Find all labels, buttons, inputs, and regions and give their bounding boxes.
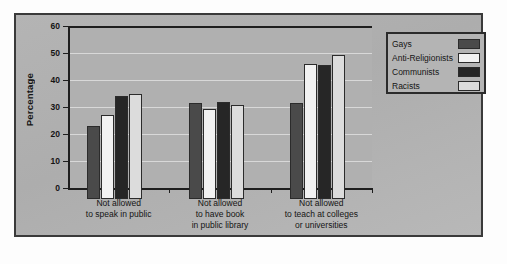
bar: [129, 94, 142, 199]
y-axis-tick: [63, 107, 68, 108]
y-axis-tick-label: 10: [51, 156, 60, 166]
y-axis-tick-label: 50: [51, 48, 60, 58]
y-axis-tick-label: 0: [55, 183, 60, 193]
y-axis-tick: [63, 80, 68, 81]
legend-label: Racists: [392, 81, 420, 91]
legend-swatch-communists: [458, 67, 480, 77]
y-axis-tick: [63, 134, 68, 135]
bar-group: [87, 37, 142, 199]
plot-area: 0102030405060 Not allowed to speak in pu…: [68, 26, 372, 201]
chart-legend: Gays Anti-Religionists Communists Racist…: [386, 32, 486, 94]
y-axis-title: Percentage: [24, 73, 35, 126]
legend-label: Anti-Religionists: [392, 53, 453, 63]
y-axis-tick: [63, 188, 68, 189]
plot-top-border: [68, 26, 372, 28]
bar: [304, 64, 317, 199]
bar: [115, 96, 128, 199]
bar: [217, 102, 230, 199]
y-axis-line: [68, 26, 70, 189]
chart-screenshot: Percentage 0102030405060 Not allowed to …: [0, 0, 507, 264]
bar: [87, 126, 100, 199]
legend-swatch-anti-religionists: [458, 53, 480, 63]
legend-item: Communists: [392, 65, 480, 78]
legend-label: Communists: [392, 67, 439, 77]
y-axis-tick-label: 40: [51, 75, 60, 85]
y-axis-tick: [63, 53, 68, 54]
legend-swatch-gays: [458, 39, 480, 49]
x-axis-tick: [169, 188, 170, 193]
bar: [290, 103, 303, 199]
bar: [318, 65, 331, 199]
x-axis-tick: [372, 188, 373, 193]
bar-group: [189, 37, 244, 199]
y-axis-tick: [63, 26, 68, 27]
y-axis-tick-label: 60: [51, 21, 60, 31]
bar: [231, 105, 244, 200]
bar: [332, 55, 345, 199]
legend-item: Racists: [392, 79, 480, 92]
legend-item: Gays: [392, 37, 480, 50]
bar-group: [290, 37, 345, 199]
y-axis-tick-label: 30: [51, 102, 60, 112]
x-axis-label: Not allowed to teach at colleges or univ…: [261, 198, 381, 231]
legend-item: Anti-Religionists: [392, 51, 480, 64]
legend-label: Gays: [392, 39, 412, 49]
x-axis-tick: [271, 188, 272, 193]
y-axis-tick: [63, 161, 68, 162]
bar: [203, 109, 216, 199]
y-axis-tick-label: 20: [51, 129, 60, 139]
bar: [189, 103, 202, 199]
chart-panel: Percentage 0102030405060 Not allowed to …: [14, 13, 483, 237]
legend-swatch-racists: [458, 81, 480, 91]
bar: [101, 115, 114, 199]
